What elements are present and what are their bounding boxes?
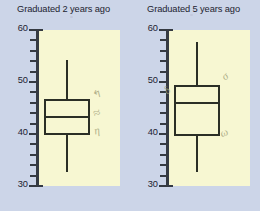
y-minor-tick-left [30, 164, 37, 166]
scan-speck [70, 16, 73, 18]
y-tick-60-right [159, 29, 167, 31]
y-minor-tick-right [160, 112, 167, 114]
scan-speck [190, 14, 193, 16]
y-minor-tick-left [30, 60, 37, 62]
y-minor-tick-right [160, 154, 167, 156]
y-axis-top-foot-right [166, 29, 173, 31]
boxplot-figure: Graduated 2 years ago 60 50 40 30 [0, 0, 260, 211]
panel-title-right: Graduated 5 years ago [147, 4, 240, 14]
y-minor-tick-right [160, 175, 167, 177]
median-left [44, 116, 90, 118]
y-tick-50-right [159, 81, 167, 83]
y-tick-label-60-right: 60 [136, 24, 158, 33]
whisker-lower-left [66, 135, 68, 172]
y-minor-tick-left [30, 50, 37, 52]
panel-title-left: Graduated 2 years ago [17, 4, 110, 14]
y-tick-40-right [159, 133, 167, 135]
whisker-upper-right [196, 42, 198, 85]
y-minor-tick-right [160, 102, 167, 104]
y-axis-bottom-foot-left [36, 185, 43, 187]
y-minor-tick-right [160, 91, 167, 93]
whisker-upper-left [66, 60, 68, 99]
y-tick-label-40-right: 40 [136, 128, 158, 137]
y-minor-tick-left [30, 71, 37, 73]
y-minor-tick-right [160, 60, 167, 62]
y-minor-tick-left [30, 39, 37, 41]
whisker-lower-right [196, 136, 198, 172]
y-tick-label-30-left: 30 [6, 180, 28, 189]
y-tick-30-left [29, 185, 37, 187]
y-minor-tick-right [160, 164, 167, 166]
y-minor-tick-left [30, 123, 37, 125]
y-tick-60-left [29, 29, 37, 31]
y-minor-tick-right [160, 71, 167, 73]
y-axis-top-foot-left [36, 29, 43, 31]
panel-graduated-2-years: Graduated 2 years ago 60 50 40 30 [0, 0, 130, 211]
y-minor-tick-left [30, 154, 37, 156]
y-axis-bottom-foot-right [166, 185, 173, 187]
y-minor-tick-left [30, 175, 37, 177]
y-tick-label-50-left: 50 [6, 76, 28, 85]
y-tick-label-30-right: 30 [136, 180, 158, 189]
y-tick-label-40-left: 40 [6, 128, 28, 137]
y-minor-tick-left [30, 91, 37, 93]
y-minor-tick-left [30, 143, 37, 145]
median-right [174, 102, 220, 104]
y-minor-tick-left [30, 102, 37, 104]
y-tick-40-left [29, 133, 37, 135]
y-tick-label-50-right: 50 [136, 76, 158, 85]
box-right [174, 85, 220, 136]
y-minor-tick-right [160, 123, 167, 125]
y-tick-30-right [159, 185, 167, 187]
y-minor-tick-right [160, 39, 167, 41]
y-tick-label-60-left: 60 [6, 24, 28, 33]
panel-graduated-5-years: Graduated 5 years ago 60 50 40 30 σ δ ω [130, 0, 260, 211]
y-tick-50-left [29, 81, 37, 83]
y-minor-tick-right [160, 50, 167, 52]
y-minor-tick-left [30, 112, 37, 114]
y-minor-tick-right [160, 143, 167, 145]
